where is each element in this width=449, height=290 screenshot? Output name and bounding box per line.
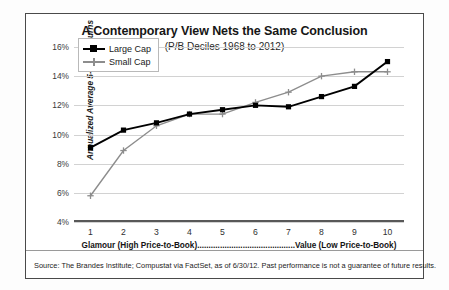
x-tick-label: 9 (352, 227, 357, 237)
data-point-marker (253, 103, 258, 108)
y-tick-label: 10% (52, 130, 69, 140)
source-note: Source: The Brandes Institute; Compustat… (34, 261, 415, 270)
data-point-marker (319, 94, 324, 99)
gridline (74, 222, 404, 223)
chart-legend: Large Cap Small Cap (78, 38, 159, 72)
x-tick-label: 6 (253, 227, 258, 237)
y-tick-label: 4% (57, 217, 69, 227)
legend-marker-plus-icon (83, 56, 105, 67)
data-point-marker (351, 69, 357, 75)
y-tick-label: 8% (57, 159, 69, 169)
x-tick-label: 1 (88, 227, 93, 237)
x-tick-label: 5 (220, 227, 225, 237)
data-point-marker (220, 107, 225, 112)
legend-item-large-cap[interactable]: Large Cap (83, 42, 151, 55)
x-tick-label: 4 (187, 227, 192, 237)
series-lines (74, 47, 404, 222)
legend-label-large-cap: Large Cap (109, 44, 151, 54)
chart-page: A Contemporary View Nets the Same Conclu… (0, 0, 449, 290)
data-point-marker (385, 59, 390, 64)
y-tick-label: 16% (52, 42, 69, 52)
y-tick-label: 12% (52, 100, 69, 110)
footer-divider (26, 250, 423, 251)
data-point-marker (121, 128, 126, 133)
y-tick-label: 6% (57, 188, 69, 198)
data-point-marker (384, 69, 390, 75)
x-tick-label: 3 (154, 227, 159, 237)
x-tick-label: 8 (319, 227, 324, 237)
x-axis-label: Glamour (High Price-to-Book)............… (74, 241, 404, 250)
data-point-marker (285, 89, 291, 95)
data-point-marker (187, 111, 192, 116)
legend-marker-square-icon (83, 43, 105, 54)
y-tick-label: 14% (52, 71, 69, 81)
x-tick-label: 7 (286, 227, 291, 237)
data-point-marker (154, 120, 159, 125)
x-tick-label: 10 (383, 227, 393, 237)
chart-panel: A Contemporary View Nets the Same Conclu… (25, 13, 424, 279)
legend-item-small-cap[interactable]: Small Cap (83, 55, 151, 68)
series-line-large-cap (91, 62, 388, 148)
data-point-marker (318, 73, 324, 79)
legend-label-small-cap: Small Cap (109, 57, 151, 67)
x-tick-label: 2 (121, 227, 126, 237)
data-point-marker (88, 145, 93, 150)
data-point-marker (286, 104, 291, 109)
data-point-marker (352, 84, 357, 89)
plot-area: Annualized Average 5-Year Returns 4%6%8%… (74, 47, 404, 222)
